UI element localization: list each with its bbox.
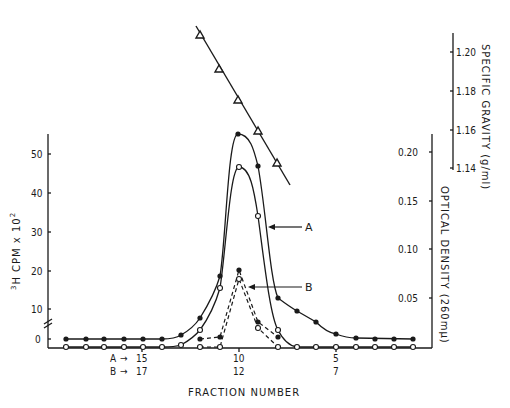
svg-text:7: 7 [333, 366, 339, 377]
svg-text:40: 40 [31, 188, 43, 199]
svg-text:0.15: 0.15 [398, 196, 418, 207]
svg-text:30: 30 [31, 227, 43, 238]
svg-text:0: 0 [35, 334, 41, 345]
optical-density-title: OPTICAL DENSITY (260mμ) [439, 186, 450, 344]
left-axis-ticks: 0 10 20 30 40 50 [31, 149, 43, 345]
svg-text:50: 50 [31, 149, 43, 160]
optical-density-ticks: 0.20 0.15 0.10 0.05 [398, 147, 418, 304]
specific-gravity-ticks: 1.20 1.18 1.16 1.14 [456, 47, 476, 174]
svg-text:20: 20 [31, 266, 43, 277]
svg-text:A: A [305, 221, 313, 234]
x-axis-ticks: A → 15 B → 17 10 12 5 7 [110, 353, 339, 377]
svg-text:0.05: 0.05 [398, 293, 418, 304]
svg-text:5: 5 [333, 353, 339, 364]
svg-text:10: 10 [31, 304, 43, 315]
x-axis-title: FRACTION NUMBER [188, 387, 300, 398]
svg-text:1.14: 1.14 [456, 163, 476, 174]
svg-text:1.18: 1.18 [456, 86, 476, 97]
svg-text:10: 10 [233, 353, 245, 364]
svg-text:12: 12 [233, 366, 244, 377]
svg-text:0.10: 0.10 [398, 244, 418, 255]
svg-text:OPTICAL DENSITY (260mμ): OPTICAL DENSITY (260mμ) [439, 186, 450, 344]
svg-text:→: → [120, 366, 128, 377]
series-a-cpm [63, 131, 415, 341]
axes [44, 33, 453, 352]
svg-text:B: B [305, 281, 313, 294]
svg-text:1.16: 1.16 [456, 125, 476, 136]
svg-text:→: → [120, 353, 128, 364]
annotation-a: A [268, 221, 313, 234]
specific-gravity-title: SPECIFIC GRAVITY (g/ml) [480, 44, 491, 190]
svg-text:15: 15 [136, 353, 147, 364]
svg-text:1.20: 1.20 [456, 47, 476, 58]
left-axis-title: 3HCPM x 102 [9, 212, 22, 290]
chart: 0 10 20 30 40 50 3HCPM x 102 0.20 0.15 0… [0, 0, 510, 408]
svg-text:B: B [110, 366, 116, 377]
svg-text:3HCPM x 102: 3HCPM x 102 [9, 212, 22, 290]
svg-text:0.20: 0.20 [398, 147, 418, 158]
specific-gravity-series [196, 26, 290, 185]
series-a-optical-density [64, 165, 416, 350]
arrow-left-icon [248, 284, 255, 290]
annotation-b: B [248, 281, 313, 294]
svg-text:17: 17 [136, 366, 147, 377]
arrow-left-icon [268, 224, 275, 230]
svg-text:SPECIFIC GRAVITY (g/ml): SPECIFIC GRAVITY (g/ml) [480, 44, 491, 190]
svg-text:A: A [110, 353, 117, 364]
